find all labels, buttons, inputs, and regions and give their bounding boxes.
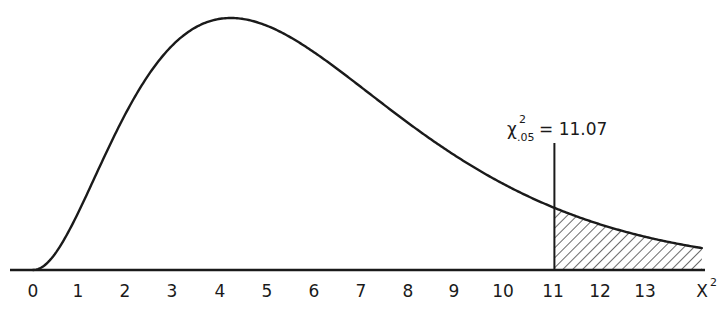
x-tick-label: 6 bbox=[309, 281, 320, 301]
x-tick-labels: 012345678910111213 bbox=[28, 281, 656, 301]
x-axis-label: X 2 bbox=[696, 276, 717, 301]
x-tick-label: 3 bbox=[167, 281, 178, 301]
x-tick-label: 4 bbox=[215, 281, 226, 301]
x-tick-label: 7 bbox=[356, 281, 367, 301]
x-tick-label: 2 bbox=[120, 281, 131, 301]
x-tick-label: 8 bbox=[403, 281, 414, 301]
crit-superscript: 2 bbox=[519, 113, 526, 126]
x-tick-label: 5 bbox=[262, 281, 273, 301]
x-tick-label: 1 bbox=[73, 281, 84, 301]
chi-square-chart: χ 2 .05 = 11.07 012345678910111213 X 2 bbox=[0, 0, 727, 312]
axis-label-chi: X bbox=[696, 281, 708, 301]
x-tick-label: 12 bbox=[589, 281, 611, 301]
crit-value-text: = 11.07 bbox=[539, 119, 607, 139]
x-tick-label: 10 bbox=[492, 281, 514, 301]
critical-value-label: χ 2 .05 = 11.07 bbox=[507, 113, 607, 144]
x-tick-label: 13 bbox=[634, 281, 656, 301]
axis-label-superscript: 2 bbox=[710, 276, 717, 289]
crit-subscript: .05 bbox=[517, 131, 535, 144]
x-tick-label: 9 bbox=[449, 281, 460, 301]
x-tick-label: 0 bbox=[28, 281, 39, 301]
x-tick-label: 11 bbox=[542, 281, 564, 301]
crit-chi-symbol: χ bbox=[507, 119, 517, 139]
